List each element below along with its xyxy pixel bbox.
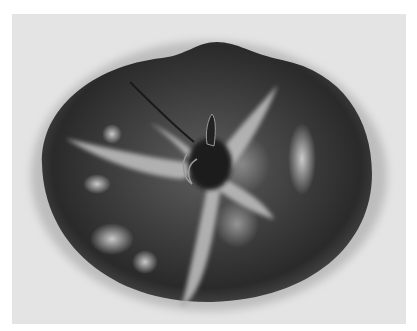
stem-base: [188, 138, 232, 190]
photograph: [12, 14, 406, 324]
tomato-image: [12, 14, 406, 324]
